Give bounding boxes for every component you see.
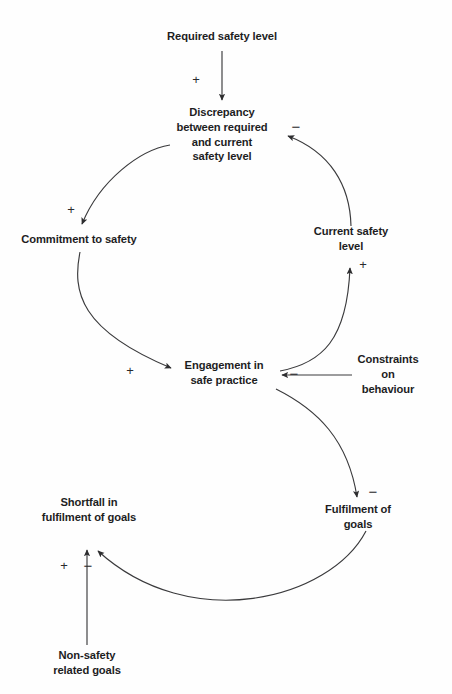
polarity-sign-constraints-to-engagement: − [290, 366, 299, 381]
polarity-sign-non-safety-goals-to-shortfall: + [60, 559, 68, 572]
causal-link-engagement-to-fulfilment [276, 389, 357, 497]
polarity-sign-required-to-discrepancy: + [192, 73, 200, 86]
node-fulfilment-of-goals: Fulfilment of goals [311, 502, 405, 532]
causal-link-engagement-to-current-safety [280, 268, 350, 371]
diagram-links-layer [0, 0, 452, 694]
node-discrepancy: Discrepancy between required and current… [176, 105, 267, 164]
node-non-safety-related-goals: Non-safety related goals [53, 648, 121, 678]
causal-loop-diagram: Required safety levelDiscrepancy between… [0, 0, 452, 694]
causal-link-current-safety-to-discrepancy [288, 136, 351, 226]
node-shortfall-in-fulfilment-of-goals: Shortfall in fulfilment of goals [42, 495, 136, 525]
causal-link-discrepancy-to-commitment [82, 145, 170, 224]
causal-link-fulfilment-to-shortfall [98, 531, 366, 600]
causal-link-commitment-to-engagement [78, 252, 171, 368]
polarity-sign-engagement-to-fulfilment: − [369, 484, 378, 499]
node-engagement-in-safe-practice: Engagement in safe practice [185, 358, 264, 388]
polarity-sign-discrepancy-to-commitment: + [67, 203, 75, 216]
node-required-safety-level: Required safety level [167, 29, 277, 44]
node-current-safety-level: Current safety level [301, 224, 402, 254]
node-constraints-on-behaviour: Constraints on behaviour [356, 352, 420, 396]
node-commitment-to-safety: Commitment to safety [21, 232, 137, 247]
polarity-sign-fulfilment-to-shortfall: − [84, 558, 93, 573]
polarity-sign-current-safety-to-discrepancy: − [292, 119, 301, 134]
polarity-sign-engagement-to-current-safety: + [359, 258, 367, 271]
polarity-sign-commitment-to-engagement: + [126, 364, 134, 377]
